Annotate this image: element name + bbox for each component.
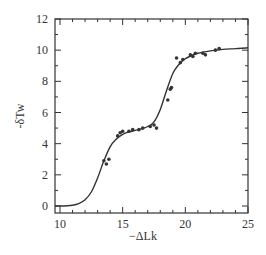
- y-tick-label: 6: [42, 106, 48, 120]
- data-point: [102, 159, 106, 163]
- tick-labels: 10152025024681012: [36, 12, 254, 231]
- data-point: [121, 129, 125, 133]
- data-point: [137, 128, 141, 132]
- y-tick-label: 0: [42, 199, 48, 213]
- data-point: [170, 86, 174, 90]
- data-point: [217, 47, 221, 51]
- data-point: [155, 126, 159, 130]
- data-point: [166, 98, 170, 102]
- data-point: [214, 48, 218, 52]
- x-tick-label: 10: [54, 217, 66, 231]
- data-point: [116, 134, 120, 138]
- data-point: [127, 129, 131, 133]
- data-point: [181, 58, 185, 62]
- data-point: [141, 126, 145, 130]
- x-tick-label: 20: [179, 217, 191, 231]
- y-tick-label: 10: [36, 43, 48, 57]
- y-tick-label: 4: [42, 137, 48, 151]
- data-point: [175, 56, 179, 60]
- x-tick-label: 25: [242, 217, 254, 231]
- data-point: [131, 128, 135, 132]
- y-tick-label: 8: [42, 74, 48, 88]
- data-point: [107, 157, 111, 161]
- y-tick-label: 12: [36, 12, 48, 26]
- data-point: [148, 125, 152, 129]
- data-point: [152, 123, 156, 127]
- data-point: [105, 162, 109, 166]
- data-point: [179, 61, 183, 65]
- y-tick-label: 2: [42, 168, 48, 182]
- chart: 10152025024681012 −ΔLk -δTw: [0, 0, 266, 255]
- y-axis-title: -δTw: [13, 103, 27, 128]
- data-point: [194, 51, 198, 55]
- data-point: [204, 53, 208, 57]
- x-tick-label: 15: [117, 217, 129, 231]
- x-axis-title: −ΔLk: [129, 229, 157, 243]
- data-point: [191, 55, 195, 59]
